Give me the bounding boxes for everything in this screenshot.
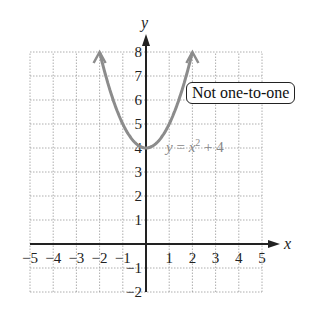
- x-tick-label: −3: [68, 250, 84, 266]
- y-tick-label: 1: [135, 212, 143, 228]
- x-tick-label: −5: [22, 250, 38, 266]
- y-tick-label: 6: [135, 92, 143, 108]
- y-tick-label: 2: [135, 188, 143, 204]
- y-tick-label: 7: [135, 68, 143, 84]
- x-tick-label: −4: [45, 250, 61, 266]
- y-tick-label: −2: [126, 284, 142, 300]
- y-tick-label: 5: [135, 116, 143, 132]
- x-tick-label: 2: [189, 250, 197, 266]
- x-axis-label: x: [283, 235, 291, 252]
- equation-label: y = x2 + 4: [164, 137, 224, 155]
- x-tick-label: 3: [212, 250, 220, 266]
- y-tick-label: 8: [135, 44, 143, 60]
- x-tick-label: 4: [235, 250, 243, 266]
- chart-svg: −5−4−3−2−112345−2−112345678 x y y = x2 +…: [0, 0, 333, 317]
- y-tick-label: −1: [126, 260, 142, 276]
- not-one-to-one-callout: Not one-to-one: [186, 82, 295, 104]
- x-tick-label: 5: [258, 250, 266, 266]
- y-tick-label: 3: [135, 164, 143, 180]
- y-axis-label: y: [139, 14, 149, 32]
- x-tick-label: −2: [92, 250, 108, 266]
- x-tick-label: 1: [165, 250, 173, 266]
